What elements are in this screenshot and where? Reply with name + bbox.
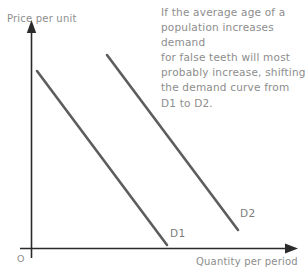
curve-label-d2: D2: [240, 207, 255, 219]
curve-label-d1: D1: [170, 227, 185, 239]
y-axis-label: Price per unit: [7, 13, 77, 24]
origin-label: O: [17, 253, 25, 264]
x-axis-arrowhead: [285, 244, 298, 254]
annotation-text: If the average age of a population incre…: [161, 5, 306, 111]
figure-canvas: Price per unit Quantity per period O D1 …: [0, 0, 306, 278]
demand-curve-d1: [37, 71, 167, 245]
x-axis-label: Quantity per period: [196, 256, 298, 267]
